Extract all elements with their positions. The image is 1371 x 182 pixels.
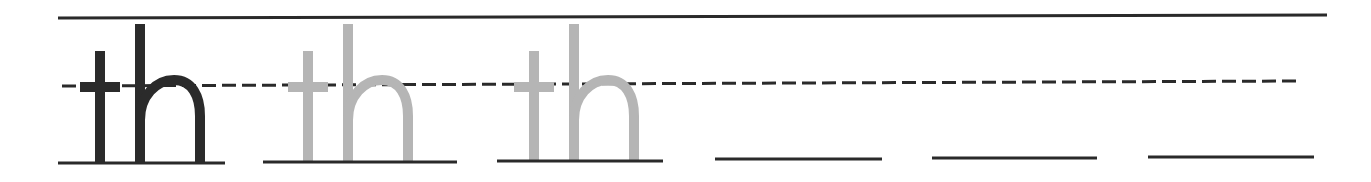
dashed-midline: [62, 81, 1297, 86]
letters-th: th: [288, 24, 408, 162]
letter-t-crossbar: [288, 82, 328, 92]
letter-h-arch: [348, 80, 408, 162]
letter-h-arch: [574, 80, 634, 161]
practice-cell-trace: th: [497, 24, 663, 161]
letter-h-arch: [140, 80, 200, 163]
practice-cell-model: th: [58, 24, 225, 163]
letter-t-crossbar: [514, 82, 554, 92]
letter-t-stem: [529, 51, 539, 161]
letter-t-stem: [303, 51, 313, 162]
handwriting-worksheet: Handwriting practice: th ththth: [0, 0, 1371, 182]
top-guide-line: [58, 15, 1327, 18]
practice-cells: ththth: [58, 24, 1314, 163]
letter-t-stem: [95, 51, 105, 163]
letter-t-crossbar: [80, 82, 120, 92]
letters-th: th: [80, 24, 200, 163]
letters-th: th: [514, 24, 634, 161]
practice-lines: ththth: [0, 0, 1371, 182]
practice-cell-trace: th: [263, 24, 457, 162]
